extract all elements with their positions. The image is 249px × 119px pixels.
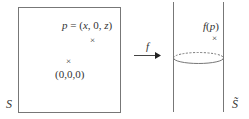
image-point-marker: × bbox=[212, 33, 217, 43]
point-p-label: p = (x, 0, z) bbox=[61, 19, 113, 32]
origin-label: (0,0,0) bbox=[55, 68, 85, 81]
diagram-canvas: S p = (x, 0, z) × × (0,0,0) f f(p) × S̃ bbox=[0, 0, 249, 119]
image-point-label: f(p) bbox=[203, 20, 219, 33]
point-p-marker: × bbox=[90, 35, 95, 45]
map-label-f: f bbox=[146, 40, 151, 52]
cylinder-ellipse-back bbox=[174, 53, 224, 58]
space-label-s-tilde: S̃ bbox=[232, 97, 239, 111]
cylinder-ellipse-front bbox=[174, 58, 224, 63]
arrow-right-icon bbox=[155, 52, 161, 59]
space-label-s: S bbox=[6, 97, 12, 111]
origin-marker: × bbox=[66, 56, 71, 66]
